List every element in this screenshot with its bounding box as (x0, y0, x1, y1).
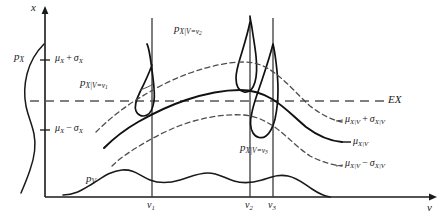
marginal-density-pv-label: pV (86, 173, 96, 186)
v-tick-label-v2: v2 (245, 200, 253, 212)
v-axis-arrowhead (429, 194, 437, 201)
x-axis-arrowhead (42, 6, 49, 14)
tick-label-mu-minus-sigma-x: μX−σX (55, 123, 83, 135)
marginal-density-px-label: pX (14, 51, 24, 64)
conditional-mean-curve (104, 90, 342, 148)
marginal-density-px-curve (21, 44, 44, 193)
conditional-density-v1-label: pX|V=v1 (80, 77, 108, 90)
marginal-density-pv-curve (63, 170, 330, 197)
conditional-density-v3-label: pX|V=v3 (240, 142, 268, 155)
v-tick-label-v3: v3 (268, 200, 276, 212)
density-regression-diagram (0, 0, 448, 222)
ex-line-label: EX (388, 94, 401, 105)
conditional-density-v2-label: pX|V=v2 (174, 23, 202, 36)
conditional-mean-label: μX|V (353, 136, 368, 148)
v-tick-label-v1: v1 (147, 200, 155, 212)
conditional-mean-minus-sigma-label: μX|V−σX|V (345, 158, 385, 170)
conditional-mean-plus-sigma-curve (96, 62, 342, 132)
axis-label-v: v (427, 202, 432, 213)
conditional-mean-plus-sigma-label: μX|V+σX|V (345, 114, 385, 126)
conditional-mean-minus-sigma-curve (112, 115, 342, 166)
leader-mu-plus-sigma (336, 120, 343, 121)
axis-label-x: x (31, 2, 36, 13)
axis-group (40, 6, 437, 200)
conditional-density-v2-curve (236, 16, 257, 92)
tick-label-mu-plus-sigma-x: μX+σX (55, 53, 83, 65)
